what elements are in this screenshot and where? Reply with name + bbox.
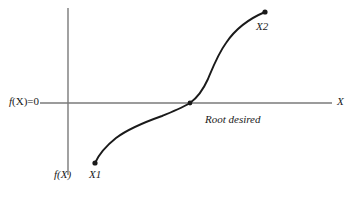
figure-root: f(X)=0 X f(X) X1 X2 Root desired <box>0 0 352 199</box>
point-x2-label: X2 <box>256 21 268 32</box>
point-root-marker <box>188 101 193 106</box>
x-axis-label: X <box>337 96 344 107</box>
y-axis-zero-label: f(X)=0 <box>9 96 39 107</box>
function-curve <box>95 12 265 163</box>
y-axis-label: f(X) <box>54 169 71 180</box>
point-x1-marker <box>92 160 97 165</box>
y-axis-zero-label-rest: (X)=0 <box>12 95 39 107</box>
point-x2-marker <box>262 9 267 14</box>
root-desired-annotation: Root desired <box>205 114 261 125</box>
function-plot <box>0 0 352 199</box>
point-x1-label: X1 <box>89 169 101 180</box>
